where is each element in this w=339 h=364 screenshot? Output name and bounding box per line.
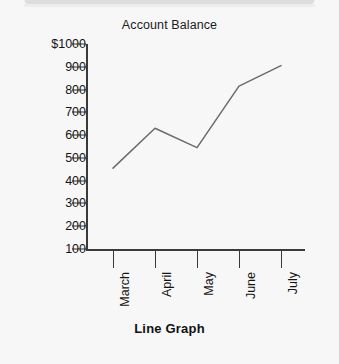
x-axis-tick xyxy=(155,249,156,268)
y-axis-tick-label: 400 xyxy=(16,174,86,188)
x-axis-tick xyxy=(113,249,114,268)
x-axis-tick-label: May xyxy=(202,272,216,296)
x-axis-tick-label: June xyxy=(244,272,258,299)
y-axis-tick-label: 300 xyxy=(16,196,86,210)
y-axis-tick-label: 700 xyxy=(16,105,86,119)
x-axis-line xyxy=(86,249,305,251)
x-axis-tick-label: July xyxy=(286,272,300,294)
chart-screenshot: Account Balance 100200300400500600700800… xyxy=(0,0,339,364)
y-axis-tick-label: 800 xyxy=(16,83,86,97)
y-axis-line xyxy=(86,44,88,250)
y-axis-tick-label: 600 xyxy=(16,128,86,142)
y-axis-tick-label: 100 xyxy=(16,242,86,256)
x-axis-tick xyxy=(197,249,198,268)
y-axis-tick-label: 200 xyxy=(16,219,86,233)
plot-area: 100200300400500600700800900$1000 MarchAp… xyxy=(0,0,339,364)
x-axis-tick-label: April xyxy=(160,272,174,297)
x-axis-tick-label: March xyxy=(118,272,132,307)
x-axis-tick xyxy=(281,249,282,268)
y-axis-tick-label: 900 xyxy=(16,60,86,74)
y-axis-tick-label: 500 xyxy=(16,151,86,165)
chart-caption: Line Graph xyxy=(0,321,339,336)
y-axis-tick-label: $1000 xyxy=(16,37,86,51)
x-axis-tick xyxy=(239,249,240,268)
